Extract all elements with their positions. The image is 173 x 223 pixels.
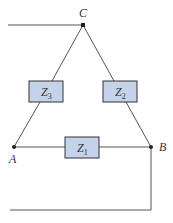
delta-circuit-diagram: Z3 Z2 Z1 C A B [0,0,173,223]
node-a-label: A [8,152,17,166]
node-a-dot [12,145,16,149]
wires [8,25,151,210]
node-b-dot [149,145,153,149]
wire-z3-to-a [14,102,40,147]
wire-c-to-z2 [83,25,114,81]
node-b-label: B [159,140,167,154]
node-c-label: C [79,6,88,20]
wire-c-to-z3 [52,25,83,81]
node-c-dot [81,23,85,27]
impedance-z3: Z3 [29,81,63,102]
impedance-z1: Z1 [65,137,99,158]
wire-z2-to-b [126,102,151,147]
impedance-z2: Z2 [103,81,137,102]
